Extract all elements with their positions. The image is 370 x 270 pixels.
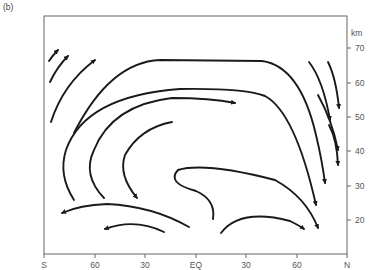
streamline-mid-cell	[63, 89, 316, 205]
streamline-lower-loop	[175, 168, 318, 228]
circulation-diagram: S6030EQ3060N 706050403020 km	[0, 0, 370, 270]
streamline-sh-upper-arrow-2	[50, 56, 68, 82]
x-tick-label: 30	[140, 260, 150, 270]
x-tick-label: 60	[292, 260, 302, 270]
y-tick-label: 20	[355, 215, 365, 225]
y-tick-label: 70	[355, 43, 365, 53]
streamline-innermost-return	[123, 122, 172, 198]
x-axis: S6030EQ3060N	[41, 254, 350, 270]
x-tick-label: S	[41, 260, 47, 270]
x-tick-label: 60	[90, 260, 100, 270]
streamline-lower-nh-arrow	[221, 217, 304, 233]
y-tick-label: 50	[355, 112, 365, 122]
x-tick-label: EQ	[190, 260, 203, 270]
y-axis-unit-label: km	[351, 28, 362, 38]
y-axis: 706050403020	[347, 43, 365, 225]
plot-frame	[44, 16, 347, 254]
y-tick-label: 40	[355, 146, 365, 156]
y-tick-label: 30	[355, 181, 365, 191]
streamline-nh-polar-descent-2	[328, 62, 339, 108]
streamline-sh-upper-arrow-1	[49, 50, 58, 61]
streamline-lowest-sh-return	[105, 224, 164, 232]
x-tick-label: 30	[241, 260, 251, 270]
y-tick-label: 60	[355, 78, 365, 88]
streamline-inner-cell	[90, 98, 235, 198]
x-tick-label: N	[344, 260, 350, 270]
streamlines	[49, 50, 339, 233]
